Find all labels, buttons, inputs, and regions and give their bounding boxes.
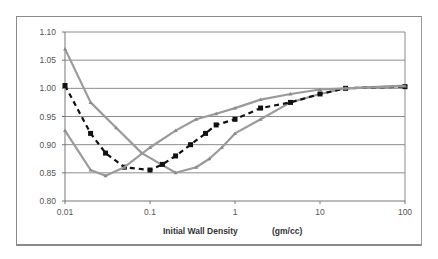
triangle-marker [63,129,67,133]
line-chart: 0.800.850.900.951.001.051.10 0.010.11101… [0,0,438,259]
square-marker [63,83,68,88]
x-tick-label: 1 [233,207,238,217]
square-marker [214,122,219,127]
square-marker [258,106,263,111]
series-2 [63,83,408,172]
y-tick-label: 0.85 [39,168,56,178]
x-axis-units: (gm/cc) [272,226,302,236]
series-1 [63,47,407,174]
y-tick-label: 0.80 [39,196,56,206]
square-marker [318,91,323,96]
x-tick-label: 0.1 [144,207,156,217]
square-marker [173,153,178,158]
x-axis-tick-labels: 0.010.1110100 [57,207,413,217]
y-tick-label: 1.10 [39,27,56,37]
y-tick-label: 0.90 [39,140,56,150]
data-series [63,47,408,177]
y-tick-label: 0.95 [39,112,56,122]
square-marker [203,131,208,136]
square-marker [88,131,93,136]
square-marker [103,151,108,156]
x-tick-label: 100 [398,207,412,217]
x-tick-label: 10 [315,207,325,217]
x-axis-label: Initial Wall Density [163,226,238,236]
y-tick-label: 1.05 [39,55,56,65]
square-marker [148,168,153,173]
square-marker [288,100,293,105]
gridlines [65,32,405,201]
triangle-marker [63,47,67,51]
square-marker [160,162,165,167]
x-tick-label: 0.01 [57,207,74,217]
y-tick-label: 1.00 [39,83,56,93]
square-marker [233,117,238,122]
square-marker [188,142,193,147]
y-axis-tick-labels: 0.800.850.900.951.001.051.10 [39,27,56,206]
series-3 [63,84,407,177]
